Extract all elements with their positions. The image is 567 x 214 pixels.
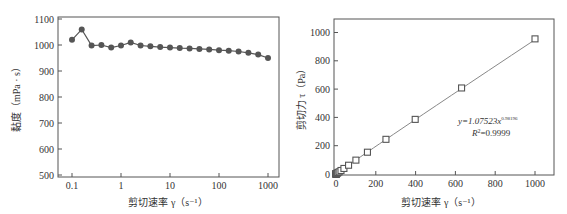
right-x-axis-label: 剪切速率 γ（s⁻¹） <box>401 196 480 208</box>
data-point-marker <box>364 149 370 155</box>
right-series <box>333 36 538 177</box>
data-point-marker <box>226 48 232 54</box>
left-y-tick-label: 900 <box>39 66 54 77</box>
left-y-axis-label: 黏度（mPa · s） <box>10 62 22 132</box>
data-point-marker <box>118 43 124 49</box>
right-x-tick-label: 800 <box>488 178 503 189</box>
left-x-ticks: 0.11101001000 <box>66 173 278 191</box>
data-point-marker <box>177 45 183 51</box>
left-series <box>69 26 271 61</box>
left-x-tick-label: 0.1 <box>66 180 79 191</box>
left-x-tick-label: 100 <box>212 180 227 191</box>
data-point-marker <box>255 52 261 58</box>
data-point-marker <box>412 116 418 122</box>
left-y-tick-label: 800 <box>39 92 54 103</box>
right-x-tick-label: 400 <box>408 178 423 189</box>
data-point-marker <box>69 37 75 43</box>
data-point-marker <box>353 157 359 163</box>
data-point-marker <box>236 49 242 55</box>
right-y-tick-label: 0 <box>325 169 330 180</box>
right-y-tick-label: 1000 <box>310 27 330 38</box>
figure: 50060070080090010001100 0.11101001000 剪切… <box>0 0 567 214</box>
data-point-marker <box>128 39 134 45</box>
data-point-marker <box>532 36 538 42</box>
data-point-marker <box>157 44 163 50</box>
left-x-axis-label: 剪切速率 γ（s⁻¹） <box>128 196 207 208</box>
data-point-marker <box>89 43 95 49</box>
left-y-tick-label: 1100 <box>34 14 54 25</box>
left-plot-frame <box>58 17 279 177</box>
data-point-marker <box>383 136 389 142</box>
right-y-tick-label: 400 <box>315 112 330 123</box>
r-squared: R2=0.9999 <box>471 128 511 138</box>
data-point-marker <box>206 46 212 52</box>
fit-equation: y=1.07523x0.98196 <box>457 116 518 126</box>
right-y-tick-label: 600 <box>315 84 330 95</box>
left-y-tick-label: 500 <box>39 170 54 181</box>
viscosity-chart: 50060070080090010001100 0.11101001000 剪切… <box>10 14 279 209</box>
data-point-marker <box>265 55 271 61</box>
data-point-marker <box>147 43 153 49</box>
data-point-marker <box>187 45 193 51</box>
data-point-marker <box>196 46 202 52</box>
data-point-marker <box>216 47 222 53</box>
data-point-marker <box>98 42 104 48</box>
right-x-tick-label: 0 <box>334 178 339 189</box>
data-point-marker <box>459 85 465 91</box>
data-point-marker <box>108 45 114 51</box>
data-point-marker <box>245 50 251 56</box>
data-point-marker <box>167 45 173 51</box>
shear-stress-chart: 02004006008001000 02004006008001000 y=1.… <box>295 19 554 208</box>
right-x-tick-label: 1000 <box>525 178 545 189</box>
right-y-axis-label: 剪切力 τ（Pa） <box>295 64 307 131</box>
data-point-marker <box>138 43 144 49</box>
right-x-tick-label: 600 <box>448 178 463 189</box>
left-y-tick-label: 600 <box>39 144 54 155</box>
right-y-tick-label: 800 <box>315 55 330 66</box>
left-x-tick-label: 10 <box>165 180 175 191</box>
right-y-tick-label: 200 <box>315 140 330 151</box>
data-point-marker <box>79 26 85 32</box>
right-x-tick-label: 200 <box>368 178 383 189</box>
right-x-ticks: 02004006008001000 <box>334 171 546 189</box>
left-x-tick-label: 1 <box>119 180 124 191</box>
left-y-tick-label: 1000 <box>34 40 54 51</box>
left-x-tick-label: 1000 <box>258 180 278 191</box>
data-point-marker <box>346 162 352 168</box>
left-y-tick-label: 700 <box>39 118 54 129</box>
